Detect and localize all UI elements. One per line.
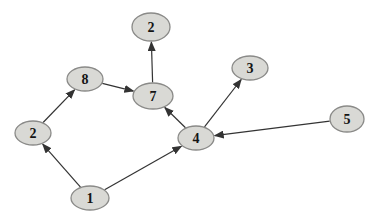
graph-node-n5: 5 xyxy=(330,106,364,132)
edge-n4-to-n7 xyxy=(165,108,186,128)
graph-node-n8: 8 xyxy=(67,67,103,91)
node-label: 7 xyxy=(150,89,157,104)
graph-diagram: 28732451 xyxy=(0,0,382,224)
edge-n7-to-n2t xyxy=(151,42,152,83)
edge-n1-to-n4 xyxy=(105,146,182,189)
node-label: 4 xyxy=(193,131,200,146)
graph-node-n4: 4 xyxy=(178,126,214,150)
edge-n4-to-n3 xyxy=(205,80,242,127)
graph-node-n7: 7 xyxy=(133,83,173,109)
graph-canvas: 28732451 xyxy=(0,0,382,224)
edge-n5-to-n4 xyxy=(215,121,330,135)
node-label: 2 xyxy=(30,126,37,141)
node-label: 2 xyxy=(148,20,155,35)
graph-node-n2t: 2 xyxy=(132,13,170,41)
edge-n1-to-n2l xyxy=(43,144,81,187)
edge-n8-to-n7 xyxy=(102,83,133,91)
edge-n2l-to-n8 xyxy=(43,90,75,123)
node-label: 1 xyxy=(87,191,94,206)
graph-node-n3: 3 xyxy=(232,56,268,80)
graph-node-n2l: 2 xyxy=(15,121,51,145)
graph-node-n1: 1 xyxy=(71,186,109,210)
node-label: 5 xyxy=(344,112,351,127)
node-label: 8 xyxy=(82,72,89,87)
node-label: 3 xyxy=(247,61,254,76)
